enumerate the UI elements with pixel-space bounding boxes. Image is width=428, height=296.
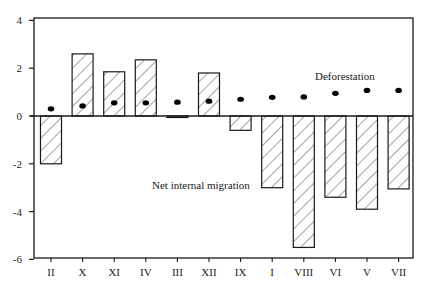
deforestation-dot-I <box>269 95 276 100</box>
deforestation-dot-IX <box>237 97 244 102</box>
deforestation-dot-II <box>48 106 55 111</box>
bar-II <box>41 116 62 164</box>
x-tick-label: III <box>172 266 183 278</box>
bar-VIII <box>293 116 314 247</box>
bar-I <box>262 116 283 188</box>
deforestation-dot-VIII <box>301 94 308 99</box>
y-tick-label: 0 <box>17 110 23 122</box>
y-tick-label: -4 <box>13 206 23 218</box>
bar-VI <box>325 116 346 197</box>
bar-XII <box>199 73 220 116</box>
x-tick-label: XII <box>201 266 217 278</box>
deforestation-dots <box>48 88 402 112</box>
deforestation-dot-VI <box>332 91 339 96</box>
bar-V <box>357 116 378 209</box>
y-tick-label: 2 <box>17 62 23 74</box>
deforestation-dot-VII <box>395 88 402 93</box>
bar-XI <box>104 72 125 116</box>
bar-IX <box>230 116 251 130</box>
annotation-label: Net internal migration <box>152 179 250 191</box>
annotation-label: Deforestation <box>315 70 375 82</box>
bar-chart: 420-2-4-6 IIXXIIVIIIXIIIXIVIIIVIVVII Def… <box>0 0 428 296</box>
y-tick-label: -6 <box>13 253 23 265</box>
deforestation-dot-XII <box>206 99 213 104</box>
x-tick-label: I <box>270 266 274 278</box>
x-tick-label: VII <box>391 266 407 278</box>
deforestation-dot-X <box>79 103 86 108</box>
deforestation-dot-V <box>364 88 371 93</box>
x-tick-label: X <box>79 266 87 278</box>
x-tick-label: VI <box>330 266 342 278</box>
x-tick-label: VIII <box>294 266 313 278</box>
x-tick-label: IV <box>140 266 152 278</box>
y-axis: 420-2-4-6 <box>13 14 34 265</box>
x-tick-label: II <box>47 266 55 278</box>
deforestation-dot-XI <box>111 100 118 105</box>
x-tick-label: V <box>363 266 371 278</box>
deforestation-dot-III <box>174 100 181 105</box>
bar-VII <box>388 116 409 189</box>
bar-IV <box>135 60 156 116</box>
deforestation-dot-IV <box>143 100 150 105</box>
x-axis: IIXXIIVIIIXIIIXIVIIIVIVVII <box>47 258 406 278</box>
y-tick-label: -2 <box>13 158 22 170</box>
y-tick-label: 4 <box>17 14 23 26</box>
migration-bars <box>41 54 410 248</box>
x-tick-label: IX <box>235 266 247 278</box>
x-tick-label: XI <box>108 266 120 278</box>
